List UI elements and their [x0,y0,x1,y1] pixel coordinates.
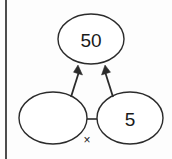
arrow-head-right-icon [102,65,111,75]
product-value: 50 [80,30,101,51]
diagram-canvas: 50 5 × [0,0,172,159]
arrow-left-factor-to-product [71,65,83,97]
arrow-right-factor-to-product [102,65,114,97]
arrow-head-left-icon [74,65,83,75]
number-bond-diagram: 50 5 × [0,0,172,159]
right-factor-value: 5 [125,109,136,130]
left-factor-ellipse[interactable] [19,92,87,144]
multiplication-sign-icon: × [83,133,90,147]
